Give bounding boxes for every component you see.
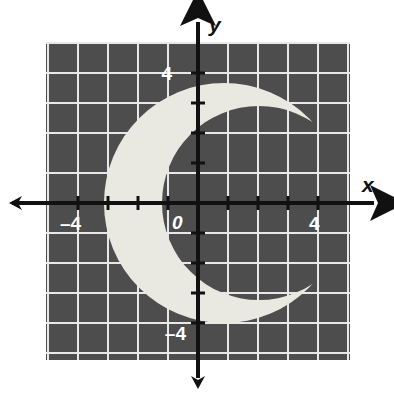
y-tick-label-negative-4: –4 [165, 323, 187, 344]
coordinate-plane-svg: x y 0 –4 4 4 –4 [0, 0, 394, 393]
y-tick-label-positive-4: 4 [161, 63, 172, 84]
x-tick-label-positive-4: 4 [309, 213, 320, 234]
coordinate-plane-figure: x y 0 –4 4 4 –4 [0, 0, 394, 393]
x-tick-label-negative-4: –4 [60, 213, 82, 234]
origin-label: 0 [172, 212, 183, 233]
x-axis-label: x [361, 173, 375, 196]
y-axis-label: y [208, 13, 222, 36]
